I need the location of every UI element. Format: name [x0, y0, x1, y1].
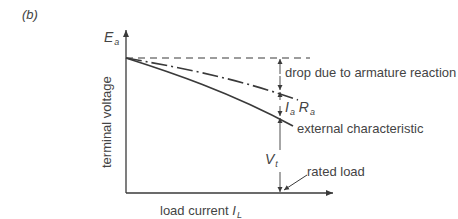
ra-symbol: R [299, 99, 309, 115]
armature-reaction-curve [126, 58, 298, 100]
external-characteristic-curve [126, 58, 293, 126]
external-characteristic-label: external characteristic [297, 122, 423, 135]
ea-subscript: a [114, 37, 119, 47]
ra-subscript: a [310, 107, 315, 117]
x-axis-label: load current IL [160, 204, 242, 217]
armature-reaction-drop-label: drop due to armature reaction [285, 66, 456, 79]
vt-label: Vt [265, 152, 278, 166]
rated-load-label: rated load [307, 165, 365, 178]
ia-subscript: a [290, 107, 295, 117]
vt-subscript: t [275, 159, 278, 169]
x-axis-subscript: L [237, 210, 242, 219]
panel-label: (b) [22, 8, 38, 21]
ea-label: Ea [104, 30, 119, 44]
y-axis-label: terminal voltage [100, 76, 113, 168]
iara-label: Ia Ra [285, 100, 315, 114]
rated-load-pointer-arrow [284, 175, 307, 190]
ia-symbol: I [285, 99, 289, 115]
x-axis-symbol: I [232, 203, 236, 218]
vt-symbol: V [265, 151, 274, 167]
diagram-canvas [0, 0, 458, 219]
ea-symbol: E [104, 29, 113, 45]
x-axis-label-text: load current [160, 203, 232, 218]
